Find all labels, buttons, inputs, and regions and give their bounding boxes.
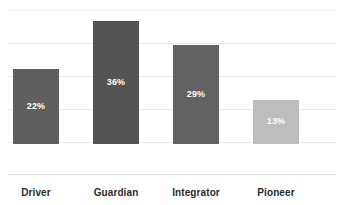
bar-pioneer[interactable]: 13% <box>253 100 299 144</box>
category-label-integrator: Integrator <box>156 187 236 198</box>
category-label-guardian: Guardian <box>76 187 156 198</box>
bar-value-guardian: 36% <box>93 77 139 87</box>
category-label-pioneer: Pioneer <box>236 187 316 198</box>
bar-guardian[interactable]: 36% <box>93 21 139 144</box>
bar-chart: 22% 36% 29% 13% Driver Guardian Integrat… <box>0 0 344 205</box>
bar-integrator[interactable]: 29% <box>173 45 219 144</box>
bar-value-integrator: 29% <box>173 89 219 99</box>
bar-driver[interactable]: 22% <box>13 69 59 144</box>
category-label-driver: Driver <box>0 187 76 198</box>
bars-layer: 22% 36% 29% 13% <box>0 0 344 175</box>
bar-value-pioneer: 13% <box>253 116 299 126</box>
category-labels: Driver Guardian Integrator Pioneer <box>0 174 344 205</box>
bar-value-driver: 22% <box>13 101 59 111</box>
